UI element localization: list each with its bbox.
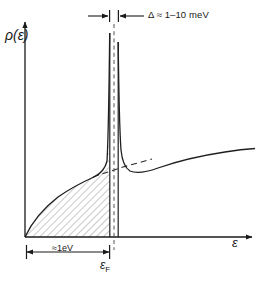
- y-axis-label: ρ(ε): [5, 28, 29, 42]
- figure-root: ρ(ε) ε Δ ≈ 1–10 meV ≈1eV εF: [0, 0, 270, 288]
- density-of-states-chart: [0, 0, 270, 288]
- gap-annotation-label: Δ ≈ 1–10 meV: [148, 10, 209, 20]
- occupied-states-shading: [25, 40, 110, 237]
- bandwidth-annotation-label: ≈1eV: [52, 244, 73, 253]
- fermi-energy-subscript: F: [105, 265, 110, 274]
- fermi-energy-label: εF: [100, 259, 110, 274]
- x-axis-label: ε: [232, 236, 238, 249]
- dos-curve-upper-branch: [118, 42, 255, 172]
